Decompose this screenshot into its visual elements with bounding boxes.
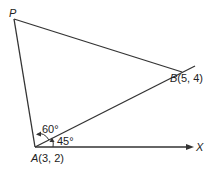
angle-arrow-60: [36, 132, 41, 137]
segment-PA: [14, 19, 35, 147]
arrow-head-X: [186, 144, 194, 150]
label-X: X: [195, 141, 204, 153]
label-A: A(3, 2): [30, 152, 64, 164]
angle-label-60: 60°: [42, 123, 59, 135]
segment-PB: [14, 19, 182, 72]
triangle-diagram: P B(5, 4) A(3, 2) X 60° 45°: [0, 0, 212, 170]
label-B: B(5, 4): [170, 72, 203, 84]
angle-label-45: 45°: [57, 135, 74, 147]
label-P: P: [9, 7, 17, 19]
